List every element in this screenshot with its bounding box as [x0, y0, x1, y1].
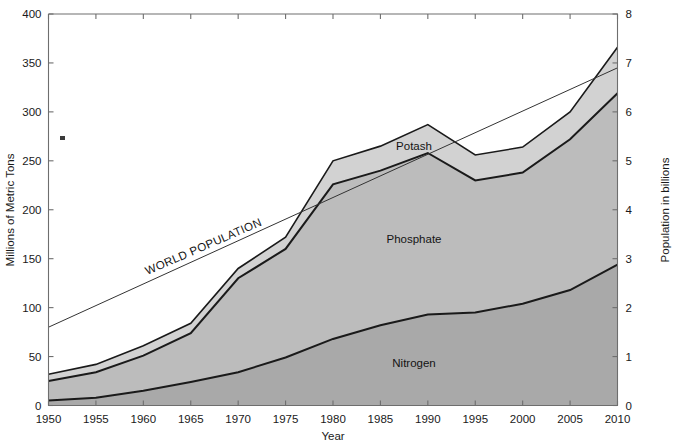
- x-tick-label: 1990: [415, 413, 441, 425]
- y-tick-label-right: 6: [626, 106, 632, 118]
- x-tick-label: 1950: [36, 413, 62, 425]
- y-tick-label-left: 400: [22, 8, 41, 20]
- series-label-nitrogen: Nitrogen: [392, 357, 435, 369]
- chart-svg: 1950195519601965197019751980198519901995…: [0, 0, 682, 446]
- y-tick-label-right: 3: [626, 253, 632, 265]
- y-tick-label-right: 0: [626, 400, 632, 412]
- x-tick-label: 1985: [368, 413, 394, 425]
- x-tick-label: 1955: [83, 413, 109, 425]
- x-tick-label: 2010: [605, 413, 631, 425]
- y-tick-label-right: 7: [626, 57, 632, 69]
- y-tick-label-right: 5: [626, 155, 632, 167]
- series-label-potash: Potash: [396, 140, 432, 152]
- x-tick-label: 1975: [273, 413, 299, 425]
- series-label-phosphate: Phosphate: [387, 233, 442, 245]
- x-tick-label: 1995: [462, 413, 488, 425]
- x-tick-label: 1960: [131, 413, 157, 425]
- y-axis-left-title: Millions of Metric Tons: [4, 153, 16, 266]
- y-tick-label-left: 350: [22, 57, 41, 69]
- y-tick-label-left: 300: [22, 106, 41, 118]
- y-tick-label-right: 8: [626, 8, 632, 20]
- y-tick-label-left: 50: [29, 351, 42, 363]
- x-tick-label: 2000: [510, 413, 536, 425]
- y-tick-label-right: 4: [626, 204, 633, 216]
- fertilizer-consumption-chart: 1950195519601965197019751980198519901995…: [0, 0, 682, 446]
- y-tick-label-left: 150: [22, 253, 41, 265]
- x-tick-label: 2005: [557, 413, 583, 425]
- x-tick-label: 1965: [178, 413, 204, 425]
- y-tick-label-left: 250: [22, 155, 41, 167]
- y-tick-label-right: 2: [626, 302, 632, 314]
- y-axis-right-title: Population in billions: [659, 157, 671, 262]
- y-tick-label-left: 200: [22, 204, 41, 216]
- y-tick-label-left: 0: [35, 400, 41, 412]
- y-tick-label-left: 100: [22, 302, 41, 314]
- y-tick-label-right: 1: [626, 351, 632, 363]
- x-tick-label: 1980: [320, 413, 346, 425]
- x-tick-label: 1970: [225, 413, 251, 425]
- stray-mark-artifact: [60, 136, 65, 140]
- x-axis-title: Year: [321, 430, 344, 442]
